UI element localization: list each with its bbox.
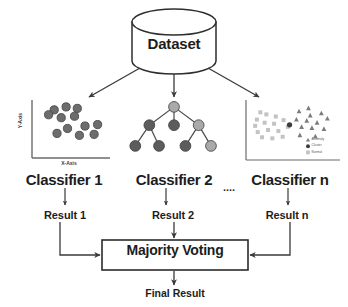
- plot3-triangle: [310, 125, 315, 130]
- plot3-triangle-markers: [294, 106, 330, 139]
- arrow-dataset-to-classifier-1: [89, 68, 140, 97]
- plot3-square: [266, 128, 270, 132]
- legend-circle-icon: [306, 144, 310, 148]
- plot3-triangle: [319, 111, 324, 116]
- plot3-square: [281, 135, 285, 139]
- plot1-point: [70, 112, 78, 120]
- plot1-point: [75, 131, 83, 139]
- tree-node-c3: [193, 120, 204, 131]
- plot3-square: [276, 129, 280, 133]
- plot3-square: [253, 124, 257, 128]
- plot3-triangle: [297, 133, 302, 138]
- plot3-triangle: [306, 106, 311, 111]
- legend-label: Cluster: [312, 144, 322, 147]
- plot3-square: [272, 122, 276, 126]
- plot1-point: [73, 104, 81, 112]
- plot3-square: [264, 112, 268, 116]
- plot3-square: [282, 118, 286, 122]
- classifier-n-scatter-plot: [246, 100, 340, 160]
- plot3-highlight-marker: [287, 122, 292, 127]
- plot3-square: [274, 114, 278, 118]
- tree-node-root: [169, 101, 180, 112]
- legend-label: Normal: [312, 151, 322, 154]
- plot1-point: [94, 120, 102, 128]
- plot3-square: [255, 118, 259, 122]
- plot3-triangle: [322, 126, 327, 131]
- tree-node-c2: [169, 120, 180, 131]
- classifier-to-result-arrows: [65, 188, 288, 205]
- plot3-triangle: [297, 109, 302, 114]
- plot3-square: [263, 121, 267, 125]
- plot3-triangle: [325, 116, 330, 121]
- arrow-result-n-to-voting: [250, 222, 290, 255]
- plot1-data-points: [45, 103, 102, 140]
- plot1-point: [62, 103, 70, 111]
- classifier-ellipsis-label: ....: [214, 182, 244, 193]
- final-result-label: Final Result: [104, 288, 246, 299]
- plot1-point: [63, 124, 71, 132]
- legend-triangle-icon: [306, 138, 310, 142]
- plot3-triangle: [304, 118, 309, 123]
- classifier-n-label: Classifier n: [238, 172, 342, 187]
- plot3-square: [256, 130, 260, 134]
- legend-square-icon: [306, 151, 310, 155]
- plot3-highlight-point: [287, 122, 292, 127]
- tree-node-l4: [206, 141, 217, 152]
- ensemble-classifier-diagram: Dataset Y-Axis X-Axis Classifier 1 Class…: [0, 0, 348, 307]
- arrow-dataset-to-classifier-n: [208, 68, 259, 97]
- plot1-point: [81, 122, 89, 130]
- plot3-triangle: [308, 113, 313, 118]
- majority-voting-label: Majority Voting: [104, 243, 246, 257]
- plot1-x-axis-label: X-Axis: [46, 161, 92, 166]
- plot3-square-markers: [253, 110, 290, 140]
- plot1-point: [45, 111, 53, 119]
- tree-node-c1: [144, 120, 155, 131]
- plot3-triangle: [299, 124, 304, 129]
- plot3-legend-markers: [306, 138, 310, 154]
- classifier-2-decision-tree: [130, 101, 216, 151]
- result-2-label: Result 2: [126, 210, 220, 221]
- plot1-y-axis-label: Y-Axis: [18, 106, 23, 136]
- legend-label: Anomaly: [312, 138, 324, 141]
- result-1-label: Result 1: [18, 210, 112, 221]
- plot1-point: [90, 130, 98, 138]
- tree-node-l3: [180, 141, 191, 152]
- tree-node-l1: [130, 141, 141, 152]
- tree-node-l2: [154, 141, 165, 152]
- plot3-triangle: [294, 117, 299, 122]
- plot1-point: [57, 114, 65, 122]
- tree-nodes: [130, 101, 216, 151]
- plot3-square: [260, 135, 264, 139]
- result-n-label: Result n: [240, 210, 334, 221]
- plot3-square: [258, 110, 262, 114]
- arrow-result-1-to-voting: [60, 222, 100, 255]
- dataset-label: Dataset: [0, 36, 348, 51]
- plot3-square: [270, 136, 274, 140]
- classifier-1-label: Classifier 1: [12, 172, 116, 187]
- plot3-triangle: [315, 120, 320, 125]
- classifier-2-label: Classifier 2: [122, 172, 226, 187]
- classifier-1-scatter-plot: [32, 100, 110, 158]
- plot1-point: [53, 129, 61, 137]
